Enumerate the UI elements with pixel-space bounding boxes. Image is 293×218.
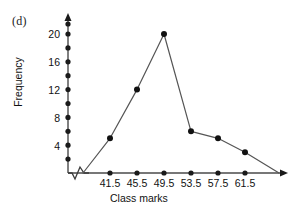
data-point [242,149,248,155]
y-tick-dot [65,45,70,50]
y-tick-dot [65,143,70,148]
x-tick-label-61-5: 61.5 [230,177,260,189]
y-tick-dot [65,21,70,26]
y-tick-label-12: 12 [38,84,60,96]
y-tick-label-20: 20 [38,28,60,40]
y-tick-label-8: 8 [38,112,60,124]
y-tick-dot [65,157,70,162]
y-tick-dot [65,31,70,36]
data-point-markers [107,31,248,155]
data-point [134,87,140,93]
data-point [215,135,221,141]
x-tick-label-53-5: 53.5 [176,177,206,189]
y-tick-dot [65,129,70,134]
y-tick-dot [65,73,70,78]
x-tick-dot [242,170,247,175]
y-tick-label-4: 4 [38,140,60,152]
x-tick-label-49-5: 49.5 [149,177,179,189]
y-tick-dot [65,101,70,106]
y-tick-dot [65,87,70,92]
x-tick-dot [188,170,193,175]
frequency-polygon-line [83,34,279,173]
x-tick-label-45-5: 45.5 [122,177,152,189]
y-tick-label-16: 16 [38,56,60,68]
data-point [107,135,113,141]
x-tick-dot [161,170,166,175]
x-tick-dot [134,170,139,175]
y-axis [65,13,72,173]
x-axis-arrow-icon [280,170,288,177]
x-tick-label-57-5: 57.5 [203,177,233,189]
frequency-polygon-figure: (d) [0,0,293,218]
x-tick-dot [107,170,112,175]
x-axis-title: Class marks [110,192,168,204]
x-tick-dot [215,170,220,175]
y-tick-dot [65,59,70,64]
x-axis [68,170,288,177]
data-point [161,31,167,37]
x-tick-label-41-5: 41.5 [95,177,125,189]
data-point [188,128,194,134]
y-axis-arrow-icon [65,13,72,21]
y-tick-dot [65,115,70,120]
y-axis-title: Frequency [12,42,24,122]
